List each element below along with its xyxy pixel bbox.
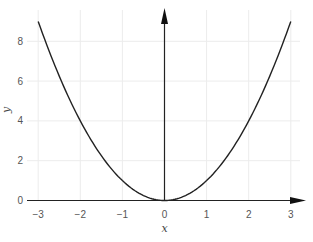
x-tick-label: −2	[75, 209, 87, 220]
y-tick-label: 8	[17, 36, 23, 47]
x-tick-label: 2	[246, 209, 252, 220]
x-tick-label: 3	[288, 209, 294, 220]
x-axis-arrow-icon	[290, 197, 306, 204]
x-axis-label: x	[161, 222, 168, 235]
y-tick-label: 6	[17, 76, 23, 87]
y-axis-arrow-icon	[161, 8, 168, 24]
x-tick-label: −1	[117, 209, 129, 220]
y-tick-label: 0	[17, 195, 23, 206]
x-tick-label: 0	[162, 209, 168, 220]
y-axis	[161, 8, 168, 201]
y-axis-label: y	[0, 106, 13, 114]
parabola-chart: −3−2−10123 02468 x y	[0, 0, 313, 242]
y-tick-label: 2	[17, 155, 23, 166]
y-tick-label: 4	[17, 115, 23, 126]
x-tick-label: 1	[204, 209, 210, 220]
y-tick-labels: 02468	[17, 36, 23, 206]
gridlines	[27, 10, 300, 201]
x-tick-label: −3	[32, 209, 44, 220]
x-tick-labels: −3−2−10123	[32, 209, 294, 220]
